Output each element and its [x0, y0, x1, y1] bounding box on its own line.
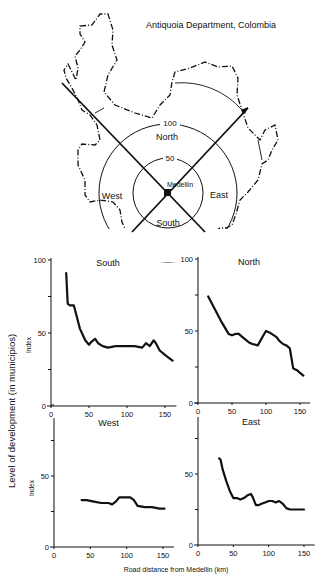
- sector-label-west: West: [102, 191, 123, 201]
- sector-label-south: South: [156, 218, 180, 228]
- x-tick-label: 0: [52, 551, 56, 560]
- x-tick-label: 150: [159, 410, 172, 419]
- map-title: Antiquoia Department, Colombia: [146, 20, 276, 30]
- x-tick-label: 50: [228, 407, 236, 416]
- data-line: [208, 296, 303, 375]
- figure-ylabel: Level of development (in municipios): [6, 334, 17, 488]
- panel-title: East: [242, 417, 261, 427]
- x-tick-label: 0: [196, 549, 200, 558]
- panel-north: 050100050100150North: [180, 255, 310, 416]
- y-tick-label: 0: [45, 543, 49, 552]
- data-line: [219, 458, 304, 509]
- map-labels: Antiquoia Department, Colombia 100 50 No…: [102, 20, 276, 228]
- y-tick-label: 50: [185, 470, 193, 479]
- ring-label-50: 50: [166, 154, 175, 163]
- x-tick-label: 150: [157, 551, 170, 560]
- road-northwest: [62, 83, 205, 232]
- x-tick-label: 100: [260, 407, 273, 416]
- x-tick-label: 50: [229, 549, 237, 558]
- panel-south: 050100050100150SouthIndex: [25, 256, 176, 419]
- y-tick-label: 100: [180, 255, 193, 264]
- y-tick-label: 50: [185, 327, 193, 336]
- figure-xlabel: Road distance from Medellin (km): [124, 566, 229, 574]
- panel-ylabel: Index: [25, 336, 32, 353]
- y-tick-label: 100: [33, 256, 46, 265]
- department-boundary: [64, 14, 278, 246]
- y-tick-label: 50: [38, 329, 46, 338]
- y-tick-label: 0: [189, 399, 193, 408]
- x-tick-label: 150: [294, 407, 307, 416]
- panel-east: 050050100150East: [185, 403, 315, 558]
- panel-ylabel: Index: [28, 479, 35, 496]
- data-line: [82, 497, 165, 508]
- data-line: [66, 273, 172, 361]
- x-tick-label: 100: [121, 410, 134, 419]
- arrow-northeast-icon: [241, 107, 248, 114]
- sector-label-east: East: [210, 190, 229, 200]
- x-tick-label: 100: [262, 549, 275, 558]
- x-tick-label: 150: [298, 549, 311, 558]
- medellin-marker: [164, 189, 171, 196]
- panel-title: West: [98, 418, 119, 428]
- x-tick-label: 100: [120, 551, 133, 560]
- panel-title: North: [238, 257, 260, 267]
- y-tick-label: 0: [189, 541, 193, 550]
- sector-label-north: North: [156, 132, 178, 142]
- medellin-label: Medellin: [167, 181, 193, 188]
- figure-canvas: Antiquoia Department, Colombia 100 50 No…: [0, 0, 321, 577]
- ring-label-100: 100: [163, 119, 177, 128]
- x-tick-label: 0: [196, 407, 200, 416]
- x-tick-label: 50: [86, 551, 94, 560]
- x-tick-label: 50: [85, 410, 93, 419]
- x-tick-label: 0: [49, 410, 53, 419]
- panel-title: South: [96, 258, 120, 268]
- arc-north-boundary: [175, 83, 242, 110]
- y-tick-label: 50: [41, 472, 49, 481]
- panel-west: 050050100150WestIndex: [28, 405, 174, 560]
- y-tick-label: 0: [42, 402, 46, 411]
